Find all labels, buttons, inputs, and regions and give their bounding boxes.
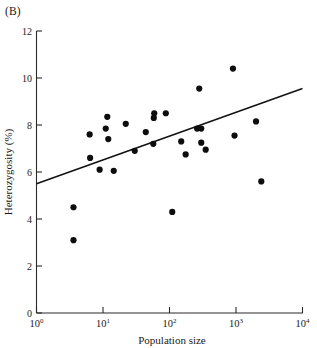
data-point xyxy=(151,110,157,116)
y-axis-title: Heterozygosity (%) xyxy=(2,128,15,215)
y-tick-label-4: 4 xyxy=(27,214,32,225)
data-point xyxy=(70,204,76,210)
x-axis-title: Population size xyxy=(138,334,206,346)
x-tick-label-1e4: 104 xyxy=(296,317,311,329)
data-point xyxy=(87,131,93,137)
data-points-group xyxy=(70,66,264,244)
figure-panel: (B) 12 10 8 6 4 2 0 xyxy=(0,0,317,348)
data-point xyxy=(258,178,264,184)
data-point xyxy=(196,85,202,91)
data-point xyxy=(70,237,76,243)
x-tick-label-1e3: 103 xyxy=(229,317,244,329)
data-point xyxy=(203,147,209,153)
x-tick-label-1e0: 100 xyxy=(30,317,45,329)
x-tick-label-1e1: 101 xyxy=(96,317,111,329)
data-point xyxy=(230,66,236,72)
x-tick-base-2: 10 xyxy=(163,318,174,329)
y-tick-label-8: 8 xyxy=(27,120,32,131)
data-point xyxy=(105,136,111,142)
scatter-plot: 12 10 8 6 4 2 0 100 101 102 xyxy=(0,0,317,348)
y-axis-tick-labels: 12 10 8 6 4 2 0 xyxy=(22,26,32,319)
y-axis-ticks xyxy=(37,31,43,313)
data-point xyxy=(163,110,169,116)
y-tick-label-10: 10 xyxy=(22,73,32,84)
x-tick-base-3: 10 xyxy=(229,318,240,329)
regression-line xyxy=(37,89,303,184)
x-tick-exp-4: 4 xyxy=(306,317,310,325)
x-tick-label-1e2: 102 xyxy=(163,317,178,329)
x-tick-exp-1: 1 xyxy=(107,317,111,325)
data-point xyxy=(183,151,189,157)
x-tick-exp-3: 3 xyxy=(240,317,244,325)
x-axis-tick-labels: 100 101 102 103 104 xyxy=(30,317,311,329)
y-tick-label-6: 6 xyxy=(27,167,32,178)
data-point xyxy=(198,140,204,146)
data-point xyxy=(143,129,149,135)
x-tick-base-0: 10 xyxy=(30,318,41,329)
data-point xyxy=(178,138,184,144)
data-point xyxy=(169,209,175,215)
y-tick-label-12: 12 xyxy=(22,26,32,37)
x-axis-ticks xyxy=(37,307,303,313)
data-point xyxy=(132,148,138,154)
x-tick-base-1: 10 xyxy=(96,318,107,329)
data-point xyxy=(111,168,117,174)
x-tick-exp-0: 0 xyxy=(40,317,44,325)
data-point xyxy=(253,118,259,124)
data-point xyxy=(97,167,103,173)
y-tick-label-2: 2 xyxy=(27,261,32,272)
data-point xyxy=(87,155,93,161)
data-point xyxy=(231,132,237,138)
data-point xyxy=(103,125,109,131)
data-point xyxy=(198,125,204,131)
data-point xyxy=(104,114,110,120)
data-point xyxy=(123,121,129,127)
x-tick-base-4: 10 xyxy=(296,318,307,329)
data-point xyxy=(150,141,156,147)
x-tick-exp-2: 2 xyxy=(173,317,177,325)
